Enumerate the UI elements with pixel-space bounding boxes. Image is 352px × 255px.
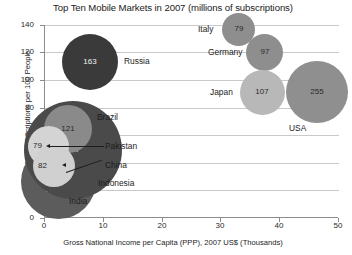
- x-tick-label-0: 0: [29, 222, 59, 230]
- x-tick-mark: [220, 218, 221, 222]
- x-tick-mark: [44, 218, 45, 222]
- x-tick-mark: [279, 218, 280, 222]
- y-tick-label-0: 0: [0, 214, 34, 222]
- country-label-usa: USA: [289, 124, 306, 133]
- leader-line-pakistan: [50, 146, 104, 147]
- country-label-india: India: [69, 197, 87, 206]
- country-label-germany: Germany: [208, 48, 242, 57]
- country-label-italy: Italy: [198, 25, 213, 34]
- x-axis-title: Gross National Income per Capita (PPP), …: [0, 238, 346, 247]
- y-tick-label-80: 80: [0, 104, 34, 112]
- x-tick-label-30: 30: [205, 222, 235, 230]
- country-label-brazil: Brazil: [97, 113, 118, 122]
- country-label-japan: Japan: [210, 88, 233, 97]
- bubble-value-usa: 255: [302, 88, 332, 96]
- x-tick-mark: [338, 218, 339, 222]
- x-tick-label-10: 10: [88, 222, 118, 230]
- x-tick-label-20: 20: [147, 222, 177, 230]
- chart-title: Top Ten Mobile Markets in 2007 (millions…: [0, 2, 346, 13]
- bubble-value-japan: 107: [247, 88, 277, 96]
- x-tick-mark: [103, 218, 104, 222]
- x-tick-mark: [162, 218, 163, 222]
- country-label-china: China: [105, 161, 127, 170]
- country-label-pakistan: Pakistan: [105, 142, 137, 151]
- leader-arrow-indonesia: [62, 163, 66, 167]
- country-label-russia: Russia: [124, 57, 150, 66]
- leader-arrow-pakistan: [46, 144, 50, 148]
- bubble-value-germany: 97: [250, 48, 280, 56]
- y-tick-label-120: 120: [0, 48, 34, 56]
- y-tick-label-100: 100: [0, 76, 34, 84]
- y-tick-label-140: 140: [0, 21, 34, 29]
- country-label-indonesia: Indonesia: [98, 179, 134, 188]
- bubble-value-russia: 163: [75, 58, 105, 66]
- x-tick-label-40: 40: [264, 222, 294, 230]
- bubble-value-italy: 79: [224, 25, 254, 33]
- x-tick-label-50: 50: [323, 222, 352, 230]
- gridline-140: [45, 25, 339, 26]
